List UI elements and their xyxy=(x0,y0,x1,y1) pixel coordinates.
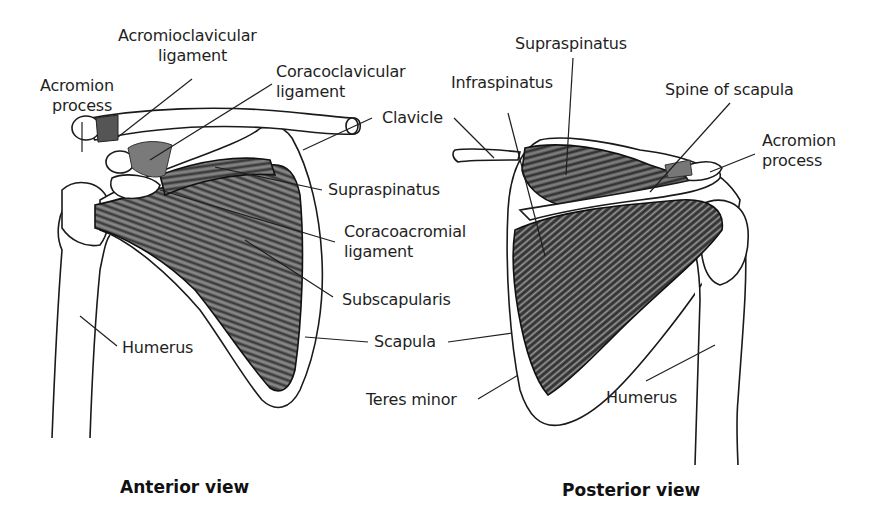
label-line: process xyxy=(40,96,114,116)
label-line: process xyxy=(762,151,836,171)
label-spine-of-scapula: Spine of scapula xyxy=(665,80,794,100)
label-line: Scapula xyxy=(374,332,436,352)
label-acromion-process-posterior: Acromion process xyxy=(762,131,836,171)
label-teres-minor: Teres minor xyxy=(366,390,457,410)
caption-posterior-view: Posterior view xyxy=(562,480,700,500)
label-line: Spine of scapula xyxy=(665,80,794,100)
label-line: Infraspinatus xyxy=(451,73,553,93)
label-supraspinatus-anterior: Supraspinatus xyxy=(328,180,440,200)
caption-anterior-view: Anterior view xyxy=(120,477,249,497)
label-line: ligament xyxy=(118,46,257,66)
label-line: Humerus xyxy=(606,388,677,408)
label-line: Supraspinatus xyxy=(328,180,440,200)
coracoclavicular-ligament-shape xyxy=(128,142,172,177)
leader-scapula-right xyxy=(448,333,512,342)
label-infraspinatus: Infraspinatus xyxy=(451,73,553,93)
label-line: Coracoacromial xyxy=(344,222,466,242)
label-line: Subscapularis xyxy=(342,290,451,310)
label-line: Acromion xyxy=(40,76,114,96)
label-line: Humerus xyxy=(122,338,193,358)
leader-humerus-posterior xyxy=(646,345,715,381)
label-humerus-anterior: Humerus xyxy=(122,338,193,358)
label-acromion-process-anterior: Acromion process xyxy=(40,76,114,116)
anterior-view xyxy=(52,108,360,438)
label-coracoclavicular-ligament: Coracoclavicular ligament xyxy=(276,62,405,102)
posterior-view xyxy=(453,138,748,465)
label-line: Teres minor xyxy=(366,390,457,410)
label-line: ligament xyxy=(276,82,405,102)
leader-acromion-posterior xyxy=(710,154,755,172)
label-line: Acromioclavicular xyxy=(118,26,257,46)
label-coracoacromial-ligament: Coracoacromial ligament xyxy=(344,222,466,262)
label-supraspinatus-posterior: Supraspinatus xyxy=(515,34,627,54)
label-line: Acromion xyxy=(762,131,836,151)
label-subscapularis: Subscapularis xyxy=(342,290,451,310)
label-line: Coracoclavicular xyxy=(276,62,405,82)
clavicle-bone xyxy=(80,108,360,140)
acromioclavicular-ligament-shape xyxy=(96,115,118,142)
label-clavicle-anterior: Clavicle xyxy=(382,108,443,128)
label-line: ligament xyxy=(344,242,466,262)
label-scapula: Scapula xyxy=(374,332,436,352)
label-line: Supraspinatus xyxy=(515,34,627,54)
label-humerus-posterior: Humerus xyxy=(606,388,677,408)
label-acromioclavicular-ligament: Acromioclavicular ligament xyxy=(118,26,257,66)
label-line: Clavicle xyxy=(382,108,443,128)
